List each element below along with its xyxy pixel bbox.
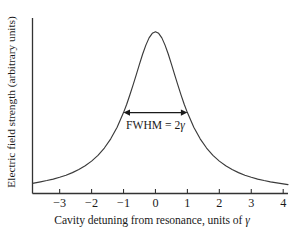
fwhm-annotation-text: FWHM = 2 (126, 119, 180, 132)
x-axis-label-text: Cavity detuning from resonance, units of (54, 214, 245, 227)
x-tick-label: 0 (143, 196, 167, 210)
x-tick-label: −1 (112, 196, 136, 210)
x-tick-label: −3 (48, 196, 72, 210)
lorentzian-curve (33, 32, 289, 185)
x-tick-label: 1 (175, 196, 199, 210)
chart-figure: Electric field strength (arbitrary units… (0, 0, 296, 239)
x-axis-label: Cavity detuning from resonance, units of… (14, 214, 290, 227)
x-axis-gamma-symbol: γ (245, 214, 250, 227)
x-tick-label: −2 (80, 196, 104, 210)
x-tick-label: 3 (239, 196, 263, 210)
x-tick-label: 2 (207, 196, 231, 210)
fwhm-arrow-icon (124, 109, 188, 115)
fwhm-gamma-symbol: γ (180, 119, 185, 132)
fwhm-annotation-label: FWHM = 2γ (105, 119, 205, 132)
x-tick-label: 4 (271, 196, 295, 210)
